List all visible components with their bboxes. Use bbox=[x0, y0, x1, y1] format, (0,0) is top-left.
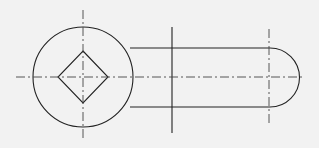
drawing-background bbox=[0, 0, 319, 148]
technical-drawing bbox=[0, 0, 319, 148]
